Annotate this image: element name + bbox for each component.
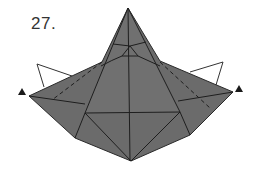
origami-diagram — [0, 0, 253, 173]
right-point-marker — [235, 85, 243, 92]
left-point-marker — [18, 88, 26, 95]
peak-face — [85, 8, 180, 113]
